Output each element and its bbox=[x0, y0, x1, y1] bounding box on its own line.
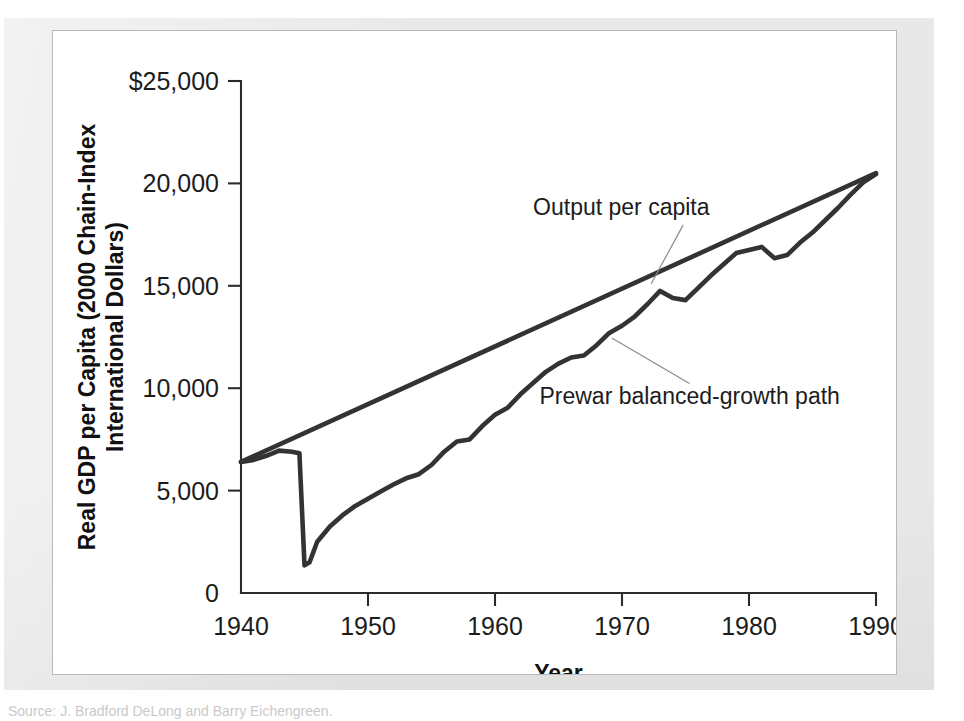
y-tick-label: 10,000 bbox=[143, 374, 219, 402]
figure-page: 05,00010,00015,00020,000$25,000 19401950… bbox=[0, 0, 964, 721]
annotation-leader-line bbox=[612, 338, 690, 384]
x-tick-label: 1940 bbox=[213, 612, 269, 640]
y-tick-label: $25,000 bbox=[129, 67, 219, 95]
x-tick-label: 1960 bbox=[467, 612, 523, 640]
x-tick-label: 1970 bbox=[594, 612, 650, 640]
y-tick-label: 15,000 bbox=[143, 272, 219, 300]
series-line-output-per-capita bbox=[241, 174, 876, 565]
x-axis-ticks: 194019501960197019801990 bbox=[213, 593, 896, 640]
y-axis-ticks: 05,00010,00015,00020,000$25,000 bbox=[129, 67, 241, 607]
y-axis-title-line1: Real GDP per Capita (2000 Chain-Index bbox=[74, 124, 100, 551]
chart-plot: 05,00010,00015,00020,000$25,000 19401950… bbox=[53, 31, 896, 674]
x-tick-label: 1950 bbox=[340, 612, 396, 640]
annotation-label: Output per capita bbox=[533, 194, 710, 220]
y-tick-label: 20,000 bbox=[143, 169, 219, 197]
x-axis-title: Year bbox=[534, 660, 583, 674]
y-axis-title-line2: International Dollars) bbox=[102, 222, 128, 452]
annotation-leader-line bbox=[651, 225, 683, 284]
y-tick-label: 0 bbox=[205, 579, 219, 607]
annotation-label: Prewar balanced-growth path bbox=[539, 383, 839, 409]
y-tick-label: 5,000 bbox=[156, 477, 219, 505]
x-tick-label: 1990 bbox=[848, 612, 896, 640]
source-note: Source: J. Bradford DeLong and Barry Eic… bbox=[8, 703, 888, 721]
data-series-group bbox=[241, 173, 876, 565]
axes-group bbox=[241, 81, 876, 593]
x-tick-label: 1980 bbox=[721, 612, 777, 640]
figure-panel: 05,00010,00015,00020,000$25,000 19401950… bbox=[52, 30, 897, 675]
